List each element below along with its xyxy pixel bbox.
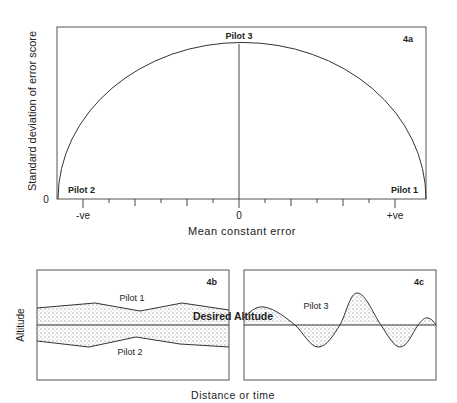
- panel-label-4a: 4a: [403, 34, 414, 44]
- figure: 4a Pilot 3 Pilot 2 Pilot 1 0 -ve 0 +ve M…: [0, 0, 457, 403]
- x-axis-label-distance: Distance or time: [191, 389, 275, 401]
- y-axis-label-altitude: Altitude: [15, 308, 26, 342]
- x-tick-pos: +ve: [387, 210, 404, 221]
- y-axis-label-4a: Standard deviation of error score: [26, 31, 38, 191]
- x-axis-ticks: [83, 199, 395, 208]
- label-pilot-1: Pilot 1: [119, 293, 144, 303]
- annotation-pilot-1: Pilot 1: [391, 185, 418, 195]
- panel-4c: 4c Pilot 3: [244, 270, 436, 380]
- error-curve: [58, 42, 426, 199]
- panel-4b: 4b Pilot 1 Pilot 2: [37, 270, 229, 380]
- desired-altitude-label: Desired Altitude: [193, 310, 273, 322]
- panel-label-4b: 4b: [206, 277, 217, 287]
- label-pilot-2: Pilot 2: [117, 347, 142, 357]
- panel-label-4c: 4c: [414, 277, 424, 287]
- annotation-pilot-3: Pilot 3: [225, 31, 252, 41]
- x-tick-neg: -ve: [76, 210, 90, 221]
- x-tick-zero: 0: [236, 210, 242, 221]
- label-pilot-3: Pilot 3: [303, 301, 328, 311]
- y-origin-label: 0: [43, 194, 49, 205]
- panel-4a-frame: [57, 27, 426, 199]
- annotation-pilot-2: Pilot 2: [68, 185, 95, 195]
- panel-4a: 4a Pilot 3 Pilot 2 Pilot 1 0 -ve 0 +ve M…: [26, 27, 426, 237]
- x-axis-label-4a: Mean constant error: [188, 225, 296, 237]
